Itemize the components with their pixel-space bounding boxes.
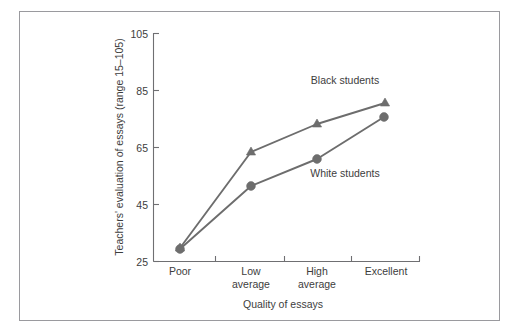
marker-white-students-excellent [380, 113, 389, 122]
annotation-white-students: White students [310, 167, 379, 179]
marker-white-students-high-average [313, 155, 322, 164]
y-tick-label-45: 45 [136, 199, 148, 211]
x-category-label-low-average-line1: Low [241, 265, 261, 277]
series-white-students [176, 113, 389, 254]
x-category-label-low-average-line2: average [232, 278, 270, 290]
x-category-label-high-average-line1: High [306, 265, 328, 277]
x-category-label-excellent: Excellent [365, 265, 408, 277]
y-tick-label-25: 25 [136, 256, 148, 268]
x-axis-title: Quality of essays [243, 298, 323, 310]
y-axis-title: Teachers' evaluation of essays (range 15… [113, 38, 125, 255]
annotation-black-students: Black students [311, 74, 379, 86]
y-tick-marks [154, 34, 160, 262]
y-tick-label-65: 65 [136, 142, 148, 154]
figure-root: Teachers' evaluation of essays (range 15… [0, 0, 520, 334]
x-tick-marks [216, 256, 420, 262]
y-tick-label-85: 85 [136, 85, 148, 97]
x-category-label-poor: Poor [169, 265, 192, 277]
marker-black-students-excellent [380, 98, 389, 106]
marker-white-students-low-average [247, 182, 256, 191]
x-category-label-high-average-line2: average [298, 278, 336, 290]
marker-white-students-poor [176, 245, 185, 254]
line-chart: Teachers' evaluation of essays (range 15… [0, 0, 520, 334]
series-white-students-line [180, 117, 384, 249]
y-tick-label-105: 105 [130, 28, 148, 40]
x-category-labels: Poor Low average High average Excellent [169, 265, 407, 290]
y-tick-labels: 105 85 65 45 25 [130, 28, 148, 268]
